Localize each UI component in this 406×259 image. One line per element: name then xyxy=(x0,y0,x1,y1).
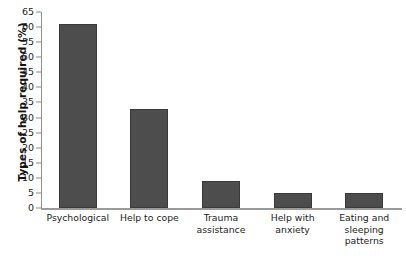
y-tick-label: 55 xyxy=(22,37,34,47)
bar-chart: Types of help required (%) 0510152025303… xyxy=(0,0,406,259)
bar xyxy=(59,24,97,208)
y-axis-tick-labels: 05101520253035404550556065 xyxy=(0,0,42,259)
y-tick-label: 60 xyxy=(22,22,34,32)
y-tick-label: 40 xyxy=(22,83,34,93)
y-tick-label: 5 xyxy=(28,188,34,198)
y-tick-label: 10 xyxy=(22,173,34,183)
x-tick-label: Psychological xyxy=(42,212,114,224)
y-tick-label: 50 xyxy=(22,52,34,62)
bar xyxy=(130,109,168,209)
x-axis-tick-labels: PsychologicalHelp to copeTrauma assistan… xyxy=(42,212,400,259)
bar xyxy=(345,193,383,208)
bar xyxy=(202,181,240,208)
bar xyxy=(274,193,312,208)
y-tick-label: 35 xyxy=(22,98,34,108)
x-tick-label: Eating and sleeping patterns xyxy=(328,212,400,247)
y-tick-label: 25 xyxy=(22,128,34,138)
y-tick-label: 65 xyxy=(22,7,34,17)
y-tick-label: 0 xyxy=(28,203,34,213)
y-tick-label: 45 xyxy=(22,68,34,78)
plot-area xyxy=(42,12,400,208)
x-tick-label: Help to cope xyxy=(114,212,186,224)
y-tick-label: 15 xyxy=(22,158,34,168)
y-tick-label: 20 xyxy=(22,143,34,153)
y-tick-label: 30 xyxy=(22,113,34,123)
x-tick-label: Help with anxiety xyxy=(257,212,329,235)
x-tick-label: Trauma assistance xyxy=(185,212,257,235)
x-axis-line xyxy=(41,208,402,210)
